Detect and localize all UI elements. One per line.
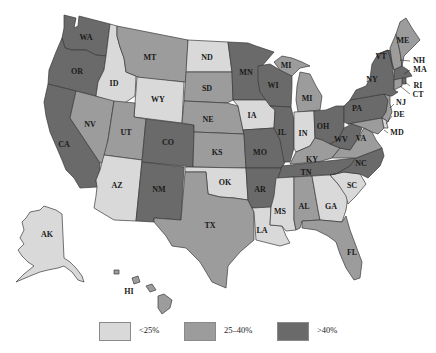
- legend-label-high: >40%: [317, 325, 337, 335]
- label-vt: VT: [375, 52, 387, 61]
- state-hi-oahu[interactable]: [132, 276, 140, 284]
- label-oh: OH: [317, 122, 330, 131]
- state-ri[interactable]: [402, 78, 406, 84]
- leader-ct: [400, 86, 410, 94]
- label-ks: KS: [212, 148, 223, 157]
- label-il: IL: [278, 128, 286, 137]
- label-or: OR: [71, 67, 83, 76]
- state-hi-kauai[interactable]: [114, 270, 119, 274]
- label-hi: HI: [124, 287, 133, 296]
- label-me: ME: [397, 36, 410, 45]
- label-wv: WV: [334, 135, 348, 144]
- label-wa: WA: [80, 33, 93, 42]
- us-choropleth-map: WA OR CA ID NV MT WY UT AZ CO NM ND SD N…: [0, 0, 436, 353]
- label-la: LA: [256, 226, 267, 235]
- legend-swatch-low: [99, 322, 131, 341]
- label-id: ID: [110, 79, 119, 88]
- label-az: AZ: [111, 181, 122, 190]
- label-wy: WY: [151, 95, 165, 104]
- legend-label-low: <25%: [139, 325, 159, 335]
- label-ar: AR: [254, 185, 266, 194]
- label-co: CO: [162, 138, 174, 147]
- label-nm: NM: [152, 185, 166, 194]
- legend-swatch-high: [277, 322, 309, 341]
- label-wi: WI: [267, 81, 278, 90]
- label-ny: NY: [366, 75, 378, 84]
- label-mi-up: MI: [281, 61, 292, 70]
- state-ak[interactable]: [16, 206, 84, 282]
- label-ak: AK: [41, 230, 54, 239]
- state-mi[interactable]: [296, 72, 322, 112]
- label-fl: FL: [347, 248, 357, 257]
- label-ok: OK: [219, 178, 232, 187]
- label-nj: NJ: [396, 98, 406, 107]
- label-sd: SD: [202, 84, 212, 93]
- state-hi-big[interactable]: [158, 294, 172, 314]
- legend: <25% 25–40% >40%: [0, 322, 436, 342]
- label-mn: MN: [239, 68, 253, 77]
- label-ga: GA: [325, 202, 337, 211]
- label-mt: MT: [144, 53, 158, 62]
- label-mo: MO: [253, 148, 267, 157]
- label-sc: SC: [347, 181, 357, 190]
- state-ct[interactable]: [394, 78, 402, 90]
- label-ne: NE: [202, 115, 213, 124]
- label-tn: TN: [300, 168, 311, 177]
- label-ms: MS: [274, 207, 287, 216]
- label-al: AL: [298, 202, 309, 211]
- label-de: DE: [393, 110, 404, 119]
- label-in: IN: [299, 129, 308, 138]
- label-nc: NC: [355, 159, 367, 168]
- label-tx: TX: [204, 221, 215, 230]
- legend-label-mid: 25–40%: [224, 325, 252, 335]
- label-mi: MI: [302, 94, 313, 103]
- label-ky: KY: [306, 155, 318, 164]
- label-ca: CA: [58, 140, 70, 149]
- label-ma: MA: [413, 65, 427, 74]
- label-ia: IA: [248, 111, 257, 120]
- label-nv: NV: [84, 120, 96, 129]
- legend-swatch-mid: [184, 322, 216, 341]
- label-pa: PA: [352, 104, 362, 113]
- label-ct: CT: [412, 90, 424, 99]
- label-nh: NH: [413, 56, 426, 65]
- label-ut: UT: [120, 128, 132, 137]
- label-nd: ND: [201, 53, 213, 62]
- label-md: MD: [390, 128, 404, 137]
- state-hi-maui[interactable]: [146, 284, 156, 292]
- label-va: VA: [356, 134, 367, 143]
- leader-md: [384, 130, 388, 133]
- label-ri: RI: [414, 81, 423, 90]
